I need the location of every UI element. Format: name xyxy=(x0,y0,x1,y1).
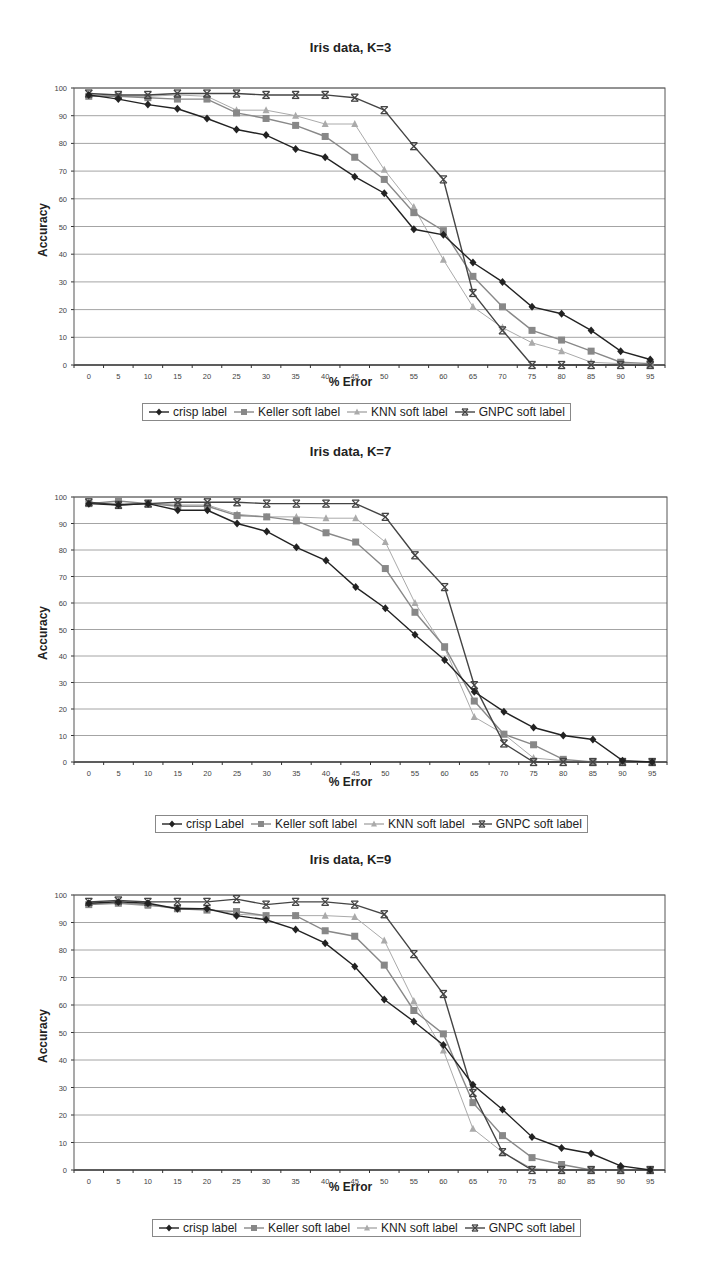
diamond-marker-icon xyxy=(588,1150,595,1158)
square-marker-icon xyxy=(322,927,329,934)
y-tick-label: 100 xyxy=(54,891,67,900)
star-marker-icon xyxy=(381,911,388,918)
triangle-marker-icon xyxy=(410,997,417,1004)
square-marker-icon xyxy=(440,1030,447,1037)
square-marker-icon xyxy=(499,1132,506,1139)
legend-item: crisp label xyxy=(158,1221,237,1235)
diamond-marker-icon xyxy=(558,1144,565,1152)
series-gnpc-soft-label xyxy=(85,896,653,1174)
triangle-legend-icon xyxy=(356,1223,378,1233)
y-tick-label: 90 xyxy=(59,919,67,928)
star-marker-icon xyxy=(440,991,447,998)
square-marker-icon xyxy=(469,1099,476,1106)
series-crisp-label xyxy=(85,898,653,1174)
diamond-legend-icon xyxy=(158,1223,180,1233)
y-tick-label: 60 xyxy=(59,1001,67,1010)
diamond-marker-icon xyxy=(166,1225,172,1232)
star-marker-icon xyxy=(410,951,417,958)
y-tick-label: 80 xyxy=(59,946,67,955)
star-marker-icon xyxy=(469,1090,476,1097)
series-knn-soft-label xyxy=(85,899,653,1173)
square-marker-icon xyxy=(351,933,358,940)
y-tick-label: 20 xyxy=(59,1111,67,1120)
legend-label: crisp label xyxy=(183,1221,237,1235)
y-tick-label: 50 xyxy=(59,1029,67,1038)
star-legend-icon xyxy=(464,1223,486,1233)
gridlines: 0102030405060708090100 xyxy=(54,891,665,1175)
square-marker-icon xyxy=(251,1225,257,1231)
legend-item: KNN soft label xyxy=(356,1221,458,1235)
y-tick-label: 10 xyxy=(59,1139,67,1148)
y-tick-label: 0 xyxy=(63,1166,67,1175)
chart-plot: 0102030405060708090100051015202530354045… xyxy=(0,0,701,1282)
legend-label: GNPC soft label xyxy=(489,1221,575,1235)
diamond-marker-icon xyxy=(292,925,299,933)
square-marker-icon xyxy=(529,1154,536,1161)
triangle-marker-icon xyxy=(469,1125,476,1132)
legend-label: Keller soft label xyxy=(268,1221,350,1235)
square-marker-icon xyxy=(292,912,299,919)
legend-item: GNPC soft label xyxy=(464,1221,575,1235)
y-axis-label: Accuracy xyxy=(36,1008,50,1062)
series-keller-soft-label xyxy=(85,900,653,1174)
y-tick-label: 70 xyxy=(59,974,67,983)
legend: crisp labelKeller soft labelKNN soft lab… xyxy=(152,1219,581,1237)
square-legend-icon xyxy=(243,1223,265,1233)
square-marker-icon xyxy=(410,1007,417,1014)
triangle-marker-icon xyxy=(381,936,388,943)
legend-item: Keller soft label xyxy=(243,1221,350,1235)
y-tick-label: 30 xyxy=(59,1084,67,1093)
y-tick-label: 40 xyxy=(59,1056,67,1065)
square-marker-icon xyxy=(381,962,388,969)
x-axis-label: % Error xyxy=(0,1180,701,1194)
legend-label: KNN soft label xyxy=(381,1221,458,1235)
